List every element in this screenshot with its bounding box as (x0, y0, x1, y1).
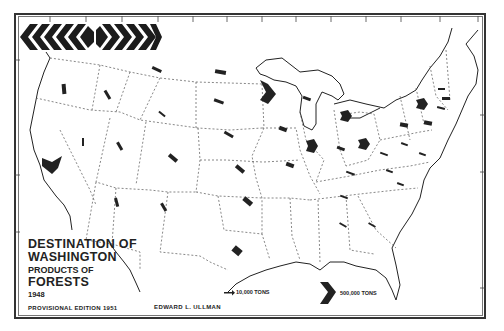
legend-small-arrow: 10,000 TONS (236, 289, 270, 295)
author-credit: EDWARD L. ULLMAN (154, 304, 221, 310)
chevron-band (20, 24, 162, 50)
legend-large-label: 500,000 TONS (340, 290, 377, 296)
edition-note: PROVISIONAL EDITION 1951 (28, 305, 117, 311)
flow-arrows (42, 66, 450, 256)
legend-large-arrow: 500,000 TONS (340, 290, 377, 296)
map-year: 1948 (28, 291, 137, 299)
title-line-2: WASHINGTON (28, 251, 137, 264)
title-line-4: FORESTS (28, 276, 137, 289)
legend-small-label: 10,000 TONS (236, 289, 270, 295)
map-title-block: DESTINATION OF WASHINGTON PRODUCTS OF FO… (28, 238, 137, 299)
